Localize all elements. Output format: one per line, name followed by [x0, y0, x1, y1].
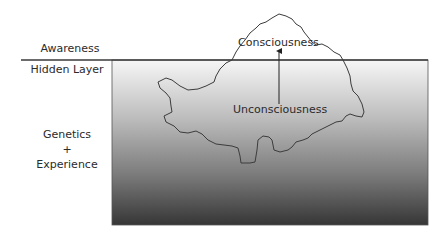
- iceberg-diagram: Awareness Hidden Layer Genetics + Experi…: [0, 0, 445, 237]
- experience-text: Experience: [22, 157, 112, 172]
- genetics-text: Genetics: [22, 127, 112, 142]
- hidden-layer-label: Hidden Layer: [22, 63, 112, 76]
- genetics-experience-label: Genetics + Experience: [22, 127, 112, 172]
- iceberg-graphic: [0, 0, 445, 237]
- consciousness-label: Consciousness: [238, 36, 318, 49]
- awareness-label: Awareness: [30, 42, 110, 55]
- plus-text: +: [22, 142, 112, 157]
- unconsciousness-label: Unconsciousness: [232, 103, 328, 116]
